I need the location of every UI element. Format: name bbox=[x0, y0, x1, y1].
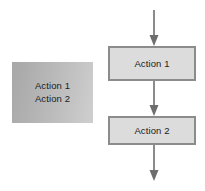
process-node-label: Action 1 bbox=[134, 58, 169, 70]
flow-connectors bbox=[0, 0, 205, 191]
diagram-canvas: Action 1 Action 2 Action 1 Action 2 bbox=[0, 0, 205, 191]
process-node-label: Action 2 bbox=[134, 125, 169, 137]
exit-arrow-icon bbox=[150, 145, 159, 181]
mid-arrow-icon bbox=[150, 81, 159, 116]
process-node-action-2[interactable]: Action 2 bbox=[108, 116, 196, 145]
process-node-action-1[interactable]: Action 1 bbox=[108, 46, 196, 81]
entry-arrow-icon bbox=[150, 10, 159, 46]
